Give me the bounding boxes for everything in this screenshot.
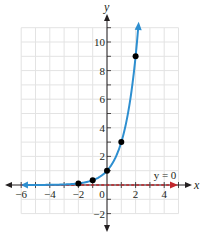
y-axis-arrow-up-icon [104,14,110,21]
curve-arrow-up-icon [135,22,142,31]
y-tick-label: 8 [100,65,106,77]
curve-3-to-the-x [21,22,142,189]
y-axis-label: y [103,0,110,14]
y-tick-label: 6 [100,93,106,105]
x-axis-arrow-left-icon [5,182,12,188]
x-tick-label: −2 [73,188,85,200]
data-point [118,139,124,145]
y-tick-label: 4 [100,122,106,134]
y-tick-label: 10 [94,36,106,48]
x-tick-label: −4 [44,188,56,200]
x-axis-arrow-right-icon [185,182,192,188]
data-point [104,168,110,174]
y-axis-arrow-down-icon [104,225,110,232]
x-tick-label: 0 [99,188,105,200]
x-tick-label: 4 [161,188,167,200]
y-tick-label: 2 [100,150,106,162]
exponential-graph: −6−4−2024−2246810 x y y = 0 [0,0,210,235]
y-tick-label: −2 [93,208,105,220]
x-axis-label: x [193,178,200,192]
x-tick-label: −6 [15,188,27,200]
asymptote-label: y = 0 [154,169,177,181]
data-point [133,53,139,59]
x-tick-label: 2 [133,188,139,200]
data-point [75,180,81,186]
asymptote-arrow-icon [170,182,178,189]
data-point [90,177,96,183]
